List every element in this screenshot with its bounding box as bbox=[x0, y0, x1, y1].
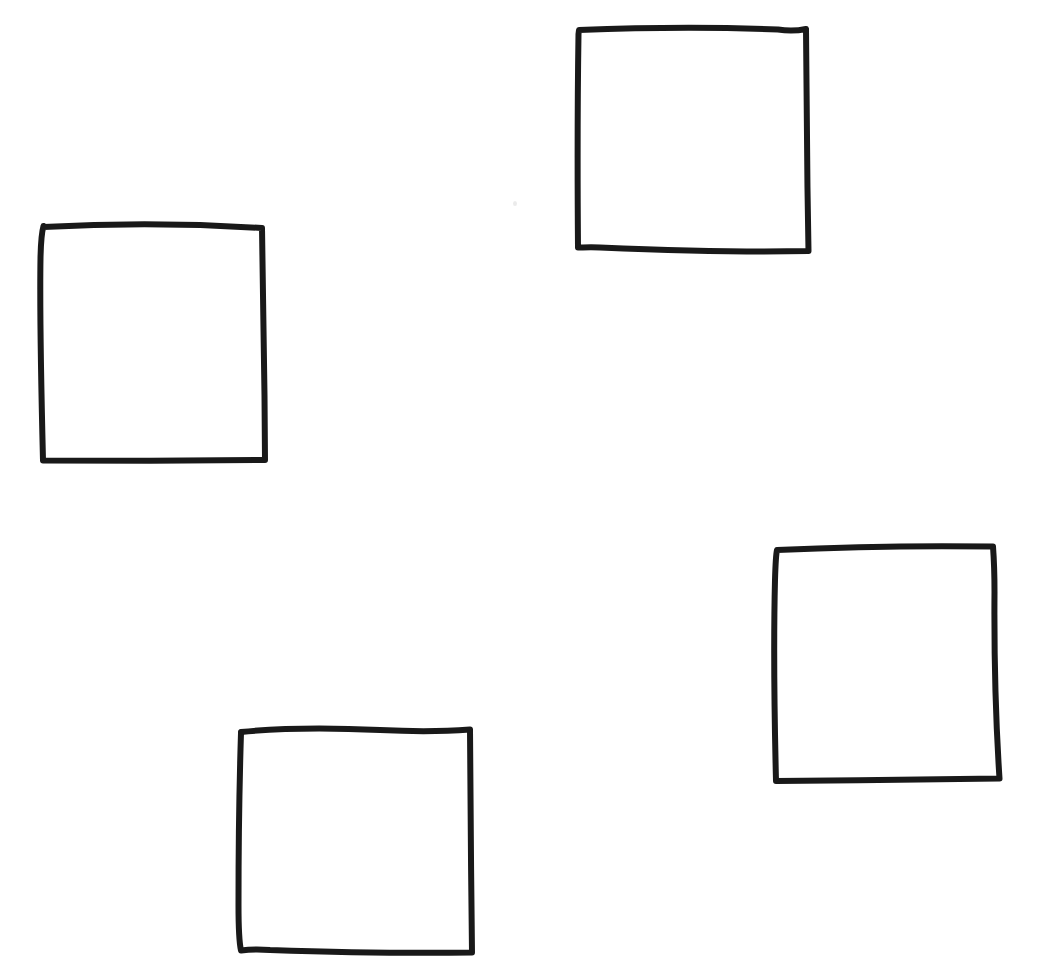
paper-background bbox=[0, 0, 1048, 963]
sketch-canvas bbox=[0, 0, 1048, 963]
hand-drawn-squares-drawing bbox=[0, 0, 1048, 963]
paper-speck bbox=[513, 201, 517, 206]
